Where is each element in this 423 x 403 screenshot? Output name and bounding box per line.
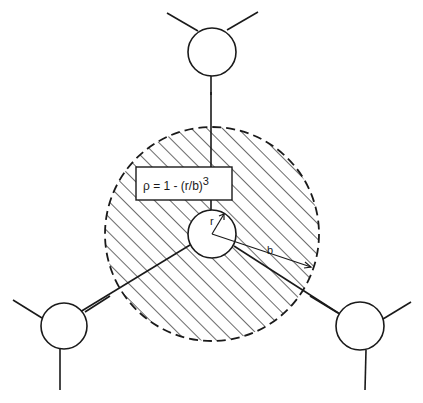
formula-text: ρ = 1 - (r/b) — [143, 179, 203, 193]
diagram-canvas: r b ρ = 1 - (r/b)3 — [0, 0, 423, 403]
node-bottom-left — [13, 296, 110, 390]
r-label: r — [210, 215, 214, 227]
b-label: b — [267, 244, 273, 256]
node-top — [167, 12, 258, 95]
formula-box: ρ = 1 - (r/b)3 — [136, 167, 232, 200]
formula-exponent: 3 — [203, 175, 209, 187]
node-bottom-right — [310, 296, 411, 390]
